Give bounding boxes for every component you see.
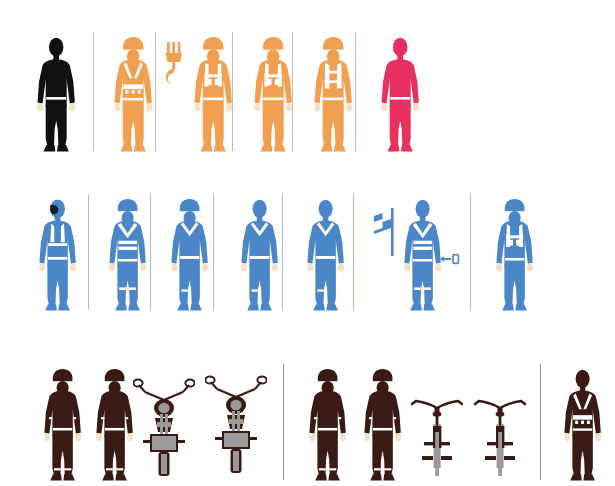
figure-silhouette-black	[33, 34, 79, 153]
figure-orange-vest-pockets	[250, 34, 296, 153]
figure-orange-harness-vest	[110, 34, 156, 153]
bicycle-front-icon	[410, 392, 464, 478]
figure-blue-flagger	[400, 196, 445, 312]
figure-blue-helmet-vest	[105, 196, 150, 312]
figure-crimson-plain	[377, 34, 423, 153]
figure-motorcyclist-helmeted	[40, 366, 85, 482]
group-divider-line	[93, 32, 94, 151]
figure-motorcyclist-open-helmet	[92, 366, 137, 482]
figure-orange-vest-straps	[310, 34, 356, 153]
group-divider-line	[540, 364, 541, 480]
figure-orange-lifting-vest	[190, 34, 236, 153]
motorcycle-front-icon	[133, 378, 195, 478]
figure-blue-helmet-collar	[167, 196, 212, 312]
lifting-hook-icon	[163, 42, 189, 88]
signal-flag-icon	[372, 208, 398, 256]
group-divider-line	[88, 194, 89, 310]
dark-rider-row	[0, 360, 615, 482]
blue-workwear-row	[0, 190, 615, 312]
bicycle-front-icon	[473, 392, 527, 478]
figure-cyclist-helmeted	[305, 366, 350, 482]
group-divider-line	[470, 194, 471, 310]
figure-blue-helmet-vest-2	[492, 196, 537, 312]
group-divider-line	[213, 194, 214, 310]
figure-harness-worker	[560, 366, 605, 482]
figure-cyclist-open-helmet	[360, 366, 405, 482]
group-divider-line	[283, 364, 284, 480]
figure-blue-respirator	[35, 196, 80, 312]
motorcycle-front-icon	[205, 375, 267, 475]
figure-blue-coverall	[237, 196, 282, 312]
group-divider-line	[353, 194, 354, 310]
orange-workwear-row	[0, 28, 615, 153]
figure-blue-coverall-belt	[303, 196, 348, 312]
pictogram-canvas	[0, 0, 615, 486]
